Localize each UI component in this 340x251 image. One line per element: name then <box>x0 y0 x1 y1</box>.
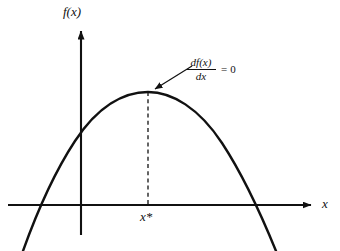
derivative-condition-annotation: df(x) dx = 0 <box>186 57 236 82</box>
derivative-value: 0 <box>230 64 236 75</box>
function-curve <box>23 92 276 251</box>
figure-canvas: f(x) x x* df(x) dx = 0 <box>0 0 340 251</box>
equals-sign: = <box>221 64 227 75</box>
x-axis-label: x <box>322 197 328 210</box>
plot-svg <box>0 0 340 251</box>
y-axis-label: f(x) <box>63 5 81 18</box>
optimum-x-label: x* <box>140 210 152 223</box>
derivative-fraction: df(x) dx <box>186 57 216 82</box>
derivative-numerator: df(x) <box>189 57 214 69</box>
derivative-denominator: dx <box>194 70 208 82</box>
